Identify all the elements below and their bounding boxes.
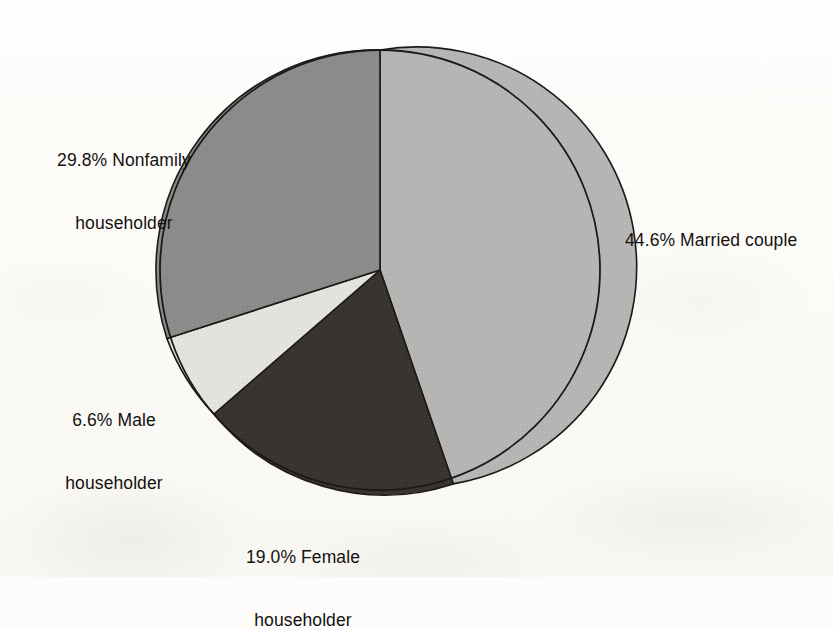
slice-label-female-householder: 19.0% Female householder — [198, 505, 408, 630]
slice-label-male-householder: 6.6% Male householder — [25, 368, 203, 515]
slice-label-male-line2: householder — [25, 473, 203, 494]
slice-label-female-line2: householder — [198, 610, 408, 630]
slice-label-nonfamily-line1: 29.8% Nonfamily — [18, 150, 230, 171]
slice-label-married-line1: 44.6% Married couple — [625, 230, 825, 251]
slice-label-married-couple: 44.6% Married couple — [625, 188, 825, 272]
slice-label-nonfamily-householder: 29.8% Nonfamily householder — [18, 108, 230, 255]
slice-label-female-line1: 19.0% Female — [198, 547, 408, 568]
slice-label-male-line1: 6.6% Male — [25, 410, 203, 431]
slice-label-nonfamily-line2: householder — [18, 213, 230, 234]
